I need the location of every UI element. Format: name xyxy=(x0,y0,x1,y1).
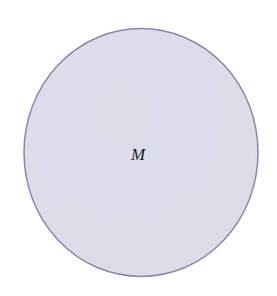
figure-canvas: M xyxy=(0,0,277,296)
region-label-m: M xyxy=(128,145,148,165)
